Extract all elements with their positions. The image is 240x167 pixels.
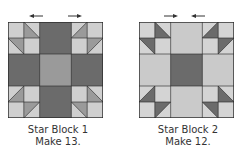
arrow-right-icon	[68, 13, 82, 19]
block-title: Star Block 2	[128, 124, 240, 136]
block-caption: Star Block 1 Make 13.	[0, 124, 118, 148]
arrow-left-icon	[191, 13, 205, 19]
arrow-left-icon	[29, 13, 43, 19]
arrow-right-icon	[164, 13, 178, 19]
block-caption: Star Block 2 Make 12.	[128, 124, 240, 148]
block-instruction: Make 13.	[0, 136, 118, 148]
block-instruction: Make 12.	[128, 136, 240, 148]
quilt-block-diagram	[8, 22, 103, 118]
quilt-block-diagram	[139, 22, 234, 118]
star-block-1: Star Block 1 Make 13.	[0, 0, 120, 167]
star-block-2: Star Block 2 Make 12.	[120, 0, 240, 167]
block-title: Star Block 1	[0, 124, 118, 136]
